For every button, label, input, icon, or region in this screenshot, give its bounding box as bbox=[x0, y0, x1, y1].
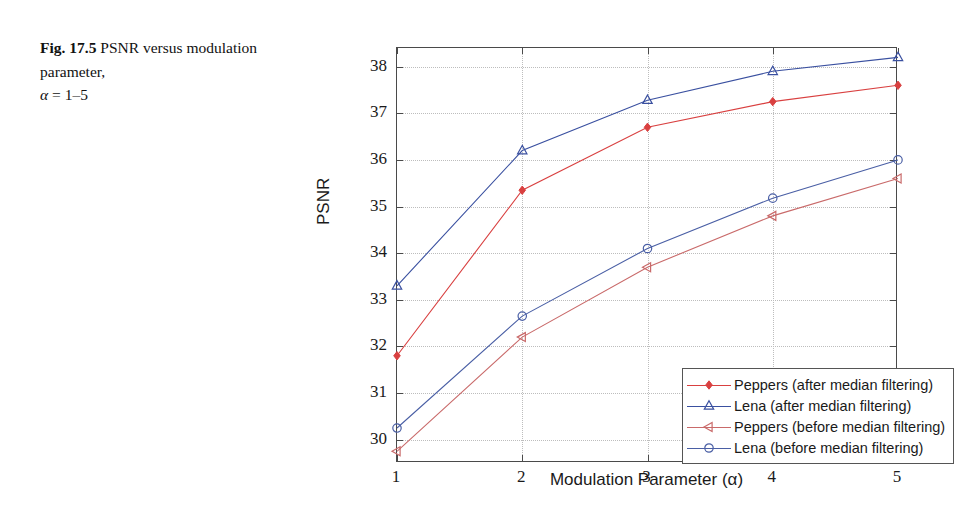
legend-item[interactable]: Lena (before median filtering) bbox=[687, 437, 945, 458]
alpha-symbol: α bbox=[40, 86, 48, 103]
y-tick-label: 36 bbox=[370, 149, 387, 169]
y-tick-label: 34 bbox=[370, 242, 387, 262]
x-tick-label: 3 bbox=[642, 467, 651, 487]
legend-marker-triangle-left-open bbox=[687, 418, 731, 436]
plot-area: Peppers (after median filtering)Lena (af… bbox=[396, 47, 897, 462]
series-0 bbox=[394, 81, 902, 360]
legend-item[interactable]: Peppers (before median filtering) bbox=[687, 416, 945, 437]
legend-item[interactable]: Peppers (after median filtering) bbox=[687, 374, 945, 395]
x-tick-label: 4 bbox=[768, 467, 777, 487]
x-tick-label: 1 bbox=[392, 467, 401, 487]
legend-marker-diamond-filled bbox=[687, 376, 731, 394]
psnr-chart: PSNR Modulation Parameter (α) 3031323334… bbox=[320, 30, 920, 500]
legend-marker-glyph bbox=[687, 439, 731, 457]
y-tick-label: 30 bbox=[370, 429, 387, 449]
y-axis-title: PSNR bbox=[314, 178, 334, 225]
y-tick-label: 35 bbox=[370, 196, 387, 216]
data-point-marker bbox=[644, 123, 651, 131]
legend-label: Peppers (before median filtering) bbox=[731, 419, 945, 435]
chart-legend: Peppers (after median filtering)Lena (af… bbox=[682, 368, 954, 464]
series-line bbox=[397, 57, 898, 285]
figure-number: Fig. 17.5 bbox=[40, 39, 96, 56]
legend-label: Lena (before median filtering) bbox=[731, 440, 923, 456]
figure-caption: Fig. 17.5 PSNR versus modulation paramet… bbox=[40, 36, 310, 107]
data-point-marker bbox=[392, 447, 400, 456]
series-1 bbox=[392, 52, 902, 289]
data-point-marker bbox=[895, 81, 902, 89]
legend-marker-glyph bbox=[687, 397, 731, 415]
legend-label: Lena (after median filtering) bbox=[731, 398, 911, 414]
legend-marker-glyph bbox=[687, 376, 731, 394]
y-tick-label: 37 bbox=[370, 102, 387, 122]
y-tick-label: 31 bbox=[370, 382, 387, 402]
y-tick-label: 32 bbox=[370, 335, 387, 355]
figure-caption-alpha: α = 1–5 bbox=[40, 83, 310, 107]
data-point-marker bbox=[768, 66, 777, 74]
legend-label: Peppers (after median filtering) bbox=[731, 377, 933, 393]
y-tick-label: 38 bbox=[370, 56, 387, 76]
legend-marker-triangle-up-open bbox=[687, 397, 731, 415]
alpha-range: = 1–5 bbox=[52, 86, 88, 103]
legend-marker-circle-open bbox=[687, 439, 731, 457]
legend-item[interactable]: Lena (after median filtering) bbox=[687, 395, 945, 416]
x-tick-label: 2 bbox=[517, 467, 526, 487]
legend-marker-glyph bbox=[687, 418, 731, 436]
y-tick-label: 33 bbox=[370, 289, 387, 309]
x-tick-label: 5 bbox=[893, 467, 902, 487]
data-point-marker bbox=[769, 97, 776, 105]
